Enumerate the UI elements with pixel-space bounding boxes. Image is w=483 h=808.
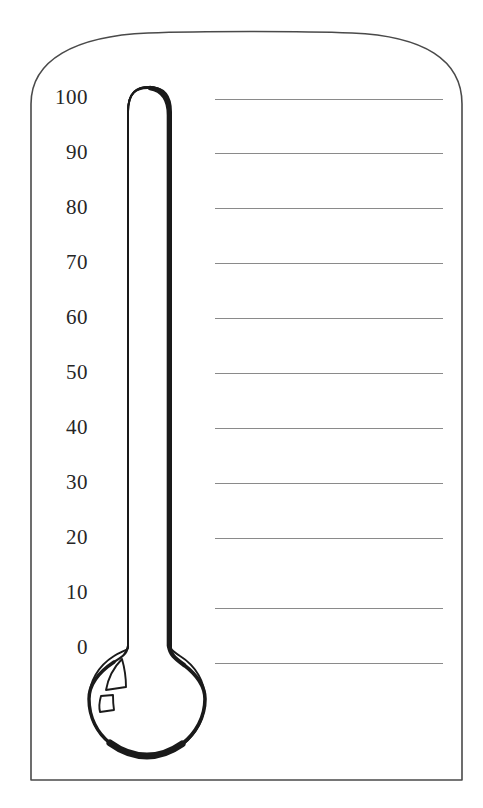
thermometer-outline — [89, 87, 205, 757]
writing-line-10[interactable] — [215, 608, 443, 609]
scale-label-0: 0 — [28, 637, 88, 658]
scale-label-10: 10 — [28, 582, 88, 603]
scale-label-40: 40 — [28, 417, 88, 438]
writing-line-7[interactable] — [215, 428, 443, 429]
writing-line-9[interactable] — [215, 538, 443, 539]
scale-label-50: 50 — [28, 362, 88, 383]
writing-line-8[interactable] — [215, 483, 443, 484]
thermometer-goal-chart: 100 90 80 70 60 50 40 30 20 10 0 — [0, 0, 483, 808]
writing-line-6[interactable] — [215, 373, 443, 374]
scale-label-60: 60 — [28, 307, 88, 328]
writing-line-11[interactable] — [215, 663, 443, 664]
writing-line-5[interactable] — [215, 318, 443, 319]
scale-label-90: 90 — [28, 142, 88, 163]
outer-frame — [31, 32, 462, 781]
scale-label-30: 30 — [28, 472, 88, 493]
bulb-highlight-small-icon — [99, 695, 114, 712]
thermometer-artwork — [0, 0, 483, 808]
scale-label-100: 100 — [28, 87, 88, 108]
writing-line-3[interactable] — [215, 208, 443, 209]
scale-label-20: 20 — [28, 527, 88, 548]
scale-label-70: 70 — [28, 252, 88, 273]
scale-label-80: 80 — [28, 197, 88, 218]
writing-line-1[interactable] — [215, 99, 443, 100]
writing-line-2[interactable] — [215, 153, 443, 154]
writing-line-4[interactable] — [215, 263, 443, 264]
